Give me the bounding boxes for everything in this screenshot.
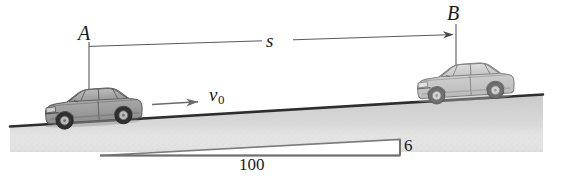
label-slope-run: 100 bbox=[239, 155, 265, 175]
velocity-symbol: v bbox=[209, 84, 217, 105]
dimension-line-right bbox=[293, 35, 453, 40]
physics-diagram-figure: A B s v0 100 6 bbox=[0, 0, 561, 180]
dimension-line-left bbox=[89, 41, 262, 47]
label-velocity-v0: v0 bbox=[209, 84, 224, 108]
label-distance-s: s bbox=[266, 30, 273, 52]
headlight bbox=[418, 82, 428, 88]
label-slope-rise: 6 bbox=[404, 136, 413, 156]
velocity-subscript: 0 bbox=[218, 92, 224, 107]
label-point-b: B bbox=[447, 2, 459, 25]
velocity-arrow-shaft bbox=[152, 102, 198, 105]
label-point-a: A bbox=[78, 22, 90, 45]
headlight bbox=[46, 107, 56, 113]
velocity-arrow bbox=[152, 102, 198, 105]
